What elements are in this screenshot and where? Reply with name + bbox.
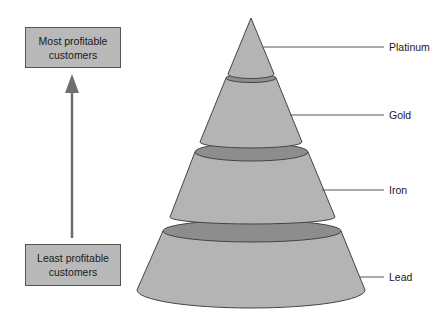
tier-platinum (228, 18, 274, 79)
tier-gold (200, 74, 302, 149)
most-profitable-line1: Most profitable (39, 34, 108, 48)
arrow-head-icon (65, 74, 79, 93)
most-profitable-box: Most profitable customers (25, 27, 121, 68)
tier-iron (170, 143, 335, 224)
tier-label-gold: Gold (389, 109, 411, 121)
profitability-arrow (65, 74, 79, 238)
most-profitable-line2: customers (49, 48, 97, 62)
tier-label-platinum: Platinum (389, 41, 430, 53)
least-profitable-line1: Least profitable (37, 251, 109, 265)
tier-lead (137, 220, 365, 308)
tier-label-iron: Iron (389, 184, 407, 196)
tier-label-lead: Lead (389, 271, 413, 283)
least-profitable-line2: customers (49, 265, 97, 279)
least-profitable-box: Least profitable customers (25, 244, 121, 286)
